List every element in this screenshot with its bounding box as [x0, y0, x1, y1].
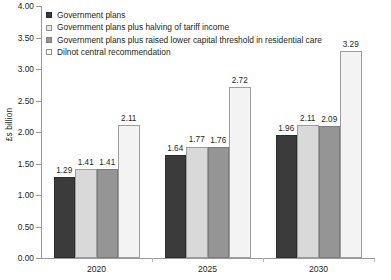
bar-2030-series3[interactable]	[340, 51, 362, 258]
legend-item-2[interactable]: Government plans plus raised lower capit…	[46, 34, 322, 46]
x-axis-label-2030: 2030	[263, 264, 374, 274]
bar-value-label: 2.72	[225, 77, 255, 85]
legend-swatch-icon	[46, 49, 52, 55]
bar-value-label: 3.29	[336, 41, 366, 49]
legend-item-label: Government plans	[57, 11, 125, 19]
bar-2025-series0[interactable]	[165, 155, 187, 258]
y-axis-tick-label: 1.00	[0, 191, 34, 199]
x-axis-label-2025: 2025	[152, 264, 263, 274]
bar-2025-series1[interactable]	[186, 147, 208, 259]
legend-item-label: Government plans plus halving of tariff …	[57, 23, 229, 31]
y-axis-tick-label: 2.50	[0, 97, 34, 105]
bar-2020-series1[interactable]	[75, 169, 97, 258]
x-axis-label-2020: 2020	[41, 264, 152, 274]
y-axis-tick-label: 1.50	[0, 160, 34, 168]
bar-2025-series3[interactable]	[229, 87, 251, 258]
caption-strip	[2, 274, 382, 280]
legend-swatch-icon	[46, 37, 52, 43]
bar-2020-series3[interactable]	[118, 125, 140, 258]
legend-item-label: Dilnot central recommendation	[57, 48, 171, 56]
bar-2030-series2[interactable]	[319, 126, 341, 258]
category-separator	[152, 258, 153, 262]
bar-2030-series1[interactable]	[297, 125, 319, 258]
y-axis-tick-label: 3.50	[0, 34, 34, 42]
legend-item-0[interactable]: Government plans	[46, 9, 322, 21]
bar-2030-series0[interactable]	[276, 135, 298, 258]
x-axis-line	[41, 258, 375, 259]
legend-item-3[interactable]: Dilnot central recommendation	[46, 46, 322, 58]
bar-value-label: 2.11	[114, 115, 144, 123]
category-separator	[374, 258, 375, 262]
legend-swatch-icon	[46, 12, 52, 18]
bar-2025-series2[interactable]	[208, 147, 230, 258]
y-axis-tick-label: 4.00	[0, 2, 34, 10]
y-axis-tick-label: 2.00	[0, 128, 34, 136]
legend-swatch-icon	[46, 25, 52, 31]
bar-2020-series2[interactable]	[97, 169, 119, 258]
bar-2020-series0[interactable]	[54, 177, 76, 258]
y-axis-tick-label: 3.00	[0, 65, 34, 73]
legend-item-1[interactable]: Government plans plus halving of tariff …	[46, 21, 322, 33]
bar-chart-figure: £s billion 4.003.503.002.502.001.501.000…	[0, 0, 391, 280]
legend-item-label: Government plans plus raised lower capit…	[57, 36, 322, 44]
y-axis-tick-label: 0.00	[0, 254, 34, 262]
chart-legend: Government plansGovernment plans plus ha…	[46, 9, 322, 59]
category-separator	[263, 258, 264, 262]
y-axis-tick-label: 0.50	[0, 223, 34, 231]
